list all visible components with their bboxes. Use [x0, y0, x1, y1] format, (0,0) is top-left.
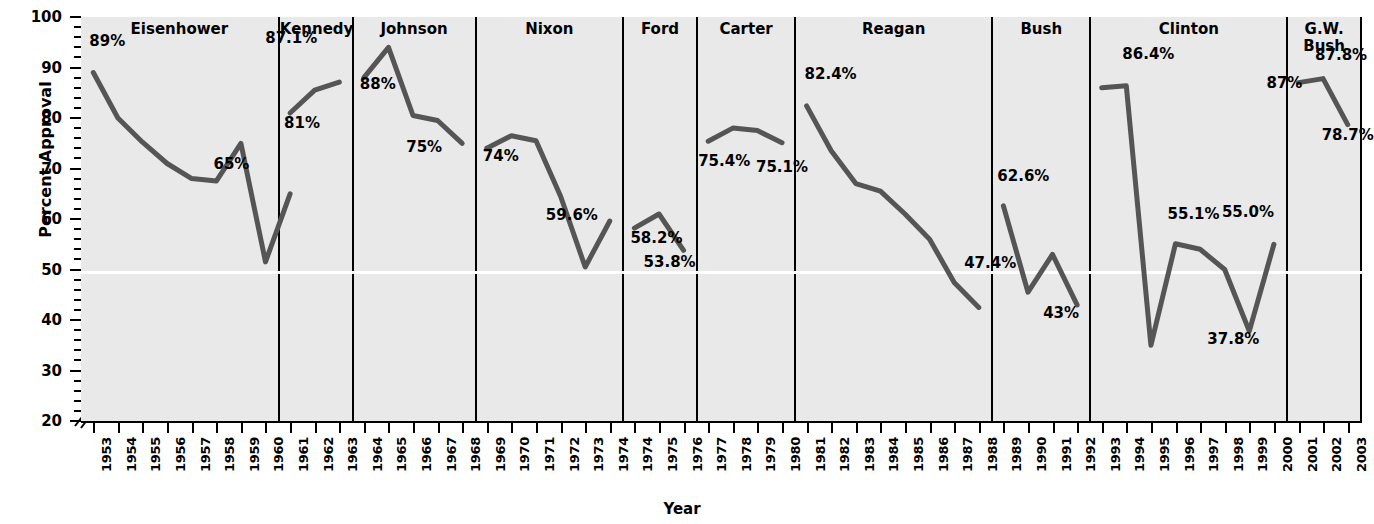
y-tick-minor: [74, 77, 81, 79]
y-tick-minor: [74, 238, 81, 240]
y-tick-minor: [74, 279, 81, 281]
x-tick: [438, 423, 440, 433]
y-axis-tick-labels: 1009080706050403020: [14, 0, 62, 524]
x-tick-label: 1987: [960, 437, 975, 472]
data-label: 53.8%: [644, 253, 696, 271]
y-tick-label: 100: [18, 8, 62, 26]
x-tick: [856, 423, 858, 433]
x-tick-label: 1999: [1255, 437, 1270, 472]
y-tick-minor: [74, 390, 81, 392]
panel-title: Nixon: [477, 21, 623, 38]
x-tick-label: 1966: [419, 437, 434, 472]
x-tick-label: 1985: [911, 437, 926, 472]
x-tick-label: 1969: [493, 437, 508, 472]
x-tick: [511, 423, 513, 433]
panel-title: Ford: [624, 21, 696, 38]
y-tick-label: 80: [18, 109, 62, 127]
x-tick-label: 1983: [862, 437, 877, 472]
y-tick-major: [70, 67, 81, 69]
x-tick-label: 2000: [1280, 437, 1295, 472]
x-tick-label: 1967: [444, 437, 459, 472]
y-tick-minor: [74, 137, 81, 139]
panel-title: Clinton: [1091, 21, 1286, 38]
x-tick: [1323, 423, 1325, 433]
data-label: 59.6%: [546, 206, 598, 224]
y-tick-label: 90: [18, 59, 62, 77]
x-tick: [1028, 423, 1030, 433]
x-tick: [93, 423, 95, 433]
panel-title: Reagan: [796, 21, 991, 38]
data-label: 87.8%: [1315, 46, 1367, 64]
x-tick-label: 2002: [1329, 437, 1344, 472]
panel-carter: Carter: [696, 17, 794, 421]
x-tick: [388, 423, 390, 433]
data-label: 58.2%: [630, 229, 682, 247]
y-tick-minor: [74, 188, 81, 190]
y-tick-minor: [74, 36, 81, 38]
x-tick-label: 1975: [665, 437, 680, 472]
panel-title: Johnson: [354, 21, 475, 38]
x-tick-label: 1994: [1132, 437, 1147, 472]
y-tick-minor: [74, 339, 81, 341]
y-tick-minor: [74, 248, 81, 250]
x-tick-label: 1970: [517, 437, 532, 472]
x-tick: [1176, 423, 1178, 433]
x-tick: [142, 423, 144, 433]
y-tick-minor: [74, 359, 81, 361]
x-tick: [1348, 423, 1350, 433]
x-tick-label: 1958: [222, 437, 237, 472]
x-tick: [1200, 423, 1202, 433]
x-tick-label: 1989: [1009, 437, 1024, 472]
y-tick-minor: [74, 127, 81, 129]
x-tick-label: 1997: [1206, 437, 1221, 472]
x-tick: [979, 423, 981, 433]
y-tick-minor: [74, 107, 81, 109]
data-label: 81%: [284, 114, 320, 132]
y-tick-major: [70, 370, 81, 372]
x-tick: [216, 423, 218, 433]
data-label: 88%: [360, 75, 396, 93]
x-tick: [192, 423, 194, 433]
data-label: 55.0%: [1222, 203, 1274, 221]
x-tick-label: 1984: [886, 437, 901, 472]
data-label: 86.4%: [1122, 45, 1174, 63]
x-tick-label: 1963: [345, 437, 360, 472]
x-tick-label: 1998: [1231, 437, 1246, 472]
y-tick-minor: [74, 299, 81, 301]
y-tick-minor: [74, 87, 81, 89]
panel-eisenhower: Eisenhower: [81, 17, 278, 421]
x-tick: [265, 423, 267, 433]
x-tick: [167, 423, 169, 433]
y-tick-major: [70, 16, 81, 18]
x-axis-title: Year: [0, 500, 1364, 518]
x-tick-label: 1980: [788, 437, 803, 472]
panel-title: Bush: [993, 21, 1089, 38]
y-tick-major: [70, 218, 81, 220]
x-tick-label: 1956: [173, 437, 188, 472]
y-tick-label: 50: [18, 261, 62, 279]
y-tick-label: 40: [18, 311, 62, 329]
x-tick: [1102, 423, 1104, 433]
x-tick: [954, 423, 956, 433]
data-label: 78.7%: [1322, 126, 1374, 144]
y-tick-minor: [74, 147, 81, 149]
panel-kennedy: Kennedy: [278, 17, 352, 421]
y-tick-minor: [74, 309, 81, 311]
x-tick: [757, 423, 759, 433]
data-label: 87%: [1267, 74, 1303, 92]
y-tick-label: 20: [18, 412, 62, 430]
x-tick: [782, 423, 784, 433]
x-tick-label: 1977: [714, 437, 729, 472]
x-tick-label: 1961: [296, 437, 311, 472]
x-tick-label: 1972: [567, 437, 582, 472]
x-tick: [880, 423, 882, 433]
x-tick: [1053, 423, 1055, 433]
x-tick: [290, 423, 292, 433]
x-tick: [315, 423, 317, 433]
y-tick-label: 30: [18, 362, 62, 380]
x-tick-label: 1953: [99, 437, 114, 472]
y-tick-label: 60: [18, 210, 62, 228]
x-tick: [733, 423, 735, 433]
y-tick-minor: [74, 349, 81, 351]
